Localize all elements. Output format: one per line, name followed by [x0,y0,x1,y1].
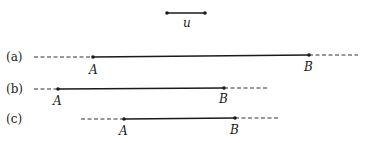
row-label: (c) [6,112,22,126]
segment-ab [93,55,309,57]
unit-endpoint-left [165,11,169,15]
point-b-dot [233,116,237,120]
point-a-label: A [118,124,128,138]
segments-figure: u (a) A B (b) A B (c) A B [0,0,365,143]
point-b-dot [222,86,226,90]
point-a-dot [91,55,95,59]
row-b: (b) A B [6,82,267,108]
point-a-label: A [52,94,62,108]
row-label: (b) [6,82,23,96]
diagram: u (a) A B (b) A B (c) A B [0,0,365,143]
point-b-label: B [218,92,228,106]
point-a-label: A [88,63,98,77]
unit-label: u [183,16,191,30]
row-a: (a) A B [6,50,358,77]
point-a-dot [122,117,126,121]
segment-ab [58,88,224,89]
row-label: (a) [6,50,23,64]
point-b-label: B [229,123,239,137]
point-b-label: B [303,60,313,74]
unit-segment: u [165,11,207,30]
point-b-dot [307,53,311,57]
row-c: (c) A B [6,112,279,138]
unit-endpoint-right [203,11,207,15]
point-a-dot [56,87,60,91]
segment-ab [124,118,235,119]
